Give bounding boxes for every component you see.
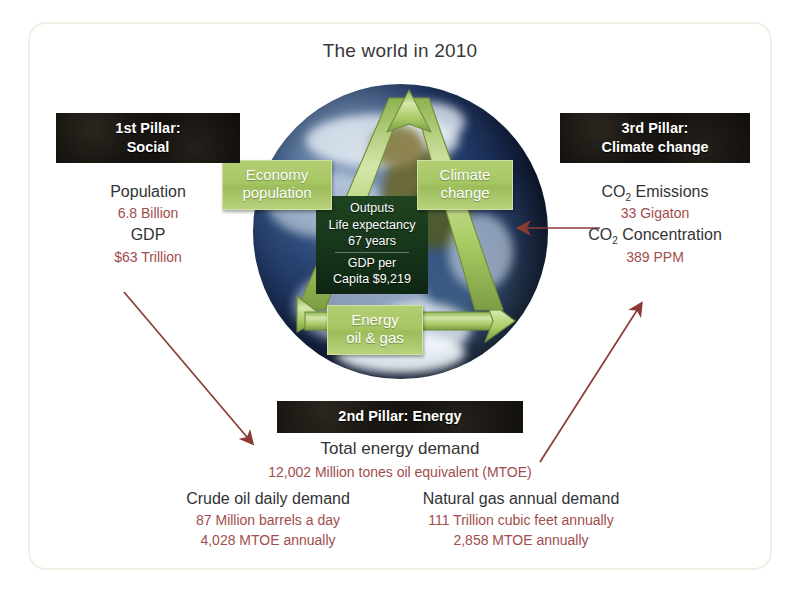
crude-oil-label: Crude oil daily demand bbox=[138, 487, 398, 510]
chip-climate-line2: change bbox=[440, 184, 489, 201]
infographic-figure: The world in 2010 bbox=[0, 0, 800, 596]
chip-energy-oil-gas: Energy oil & gas bbox=[327, 305, 423, 355]
natural-gas-label: Natural gas annual demand bbox=[385, 487, 657, 510]
banner-first-pillar-social: 1st Pillar: Social bbox=[56, 113, 240, 163]
co2-emissions-label-post: Emissions bbox=[631, 183, 708, 200]
crude-oil-demand: Crude oil daily demand 87 Million barrel… bbox=[138, 487, 398, 551]
co2-concentration-label-pre: CO bbox=[588, 226, 612, 243]
chip-climate-line1: Climate bbox=[440, 166, 491, 183]
chip-economy-line2: population bbox=[242, 184, 311, 201]
gdp-label: GDP bbox=[56, 223, 240, 246]
natural-gas-demand: Natural gas annual demand 111 Trillion c… bbox=[385, 487, 657, 551]
banner-climate-line1: 3rd Pillar: bbox=[622, 120, 689, 136]
chip-energy-line2: oil & gas bbox=[346, 329, 404, 346]
total-energy-demand: Total energy demand 12,002 Million tones… bbox=[235, 437, 565, 482]
outputs-divider bbox=[335, 252, 409, 253]
banner-social-line1: 1st Pillar: bbox=[115, 120, 180, 136]
chip-economy-line1: Economy bbox=[246, 166, 309, 183]
crude-oil-value-daily: 87 Million barrels a day bbox=[138, 510, 398, 530]
figure-title: The world in 2010 bbox=[0, 40, 800, 62]
natural-gas-value-volume: 111 Trillion cubic feet annually bbox=[385, 510, 657, 530]
banner-third-pillar-climate: 3rd Pillar: Climate change bbox=[560, 113, 750, 163]
total-energy-demand-value: 12,002 Million tones oil equivalent (MTO… bbox=[235, 462, 565, 482]
population-label: Population bbox=[56, 180, 240, 203]
climate-metrics: CO2 Emissions 33 Gigaton CO2 Concentrati… bbox=[556, 180, 754, 267]
co2-concentration-value: 389 PPM bbox=[556, 247, 754, 267]
outputs-gdp-per-label: GDP per bbox=[319, 255, 425, 272]
co2-concentration-label: CO2 Concentration bbox=[556, 223, 754, 246]
co2-concentration-label-post: Concentration bbox=[618, 226, 722, 243]
chip-energy-line1: Energy bbox=[351, 311, 399, 328]
crude-oil-value-annual: 4,028 MTOE annually bbox=[138, 530, 398, 550]
banner-social-line2: Social bbox=[127, 139, 170, 155]
gdp-value: $63 Trillion bbox=[56, 247, 240, 267]
natural-gas-value-mtoe: 2,858 MTOE annually bbox=[385, 530, 657, 550]
co2-emissions-label: CO2 Emissions bbox=[556, 180, 754, 203]
co2-emissions-label-pre: CO bbox=[602, 183, 626, 200]
outputs-life-expectancy-value: 67 years bbox=[319, 233, 425, 250]
population-value: 6.8 Billion bbox=[56, 203, 240, 223]
total-energy-demand-label: Total energy demand bbox=[235, 437, 565, 462]
chip-climate-change: Climate change bbox=[417, 160, 513, 210]
banner-second-pillar-energy: 2nd Pillar: Energy bbox=[277, 401, 523, 433]
banner-climate-line2: Climate change bbox=[601, 139, 708, 155]
outputs-gdp-per-value: Capita $9,219 bbox=[319, 271, 425, 288]
outputs-heading: Outputs bbox=[319, 200, 425, 217]
social-metrics: Population 6.8 Billion GDP $63 Trillion bbox=[56, 180, 240, 267]
outputs-box: Outputs Life expectancy 67 years GDP per… bbox=[316, 196, 428, 294]
co2-emissions-value: 33 Gigaton bbox=[556, 203, 754, 223]
outputs-life-expectancy-label: Life expectancy bbox=[319, 217, 425, 234]
